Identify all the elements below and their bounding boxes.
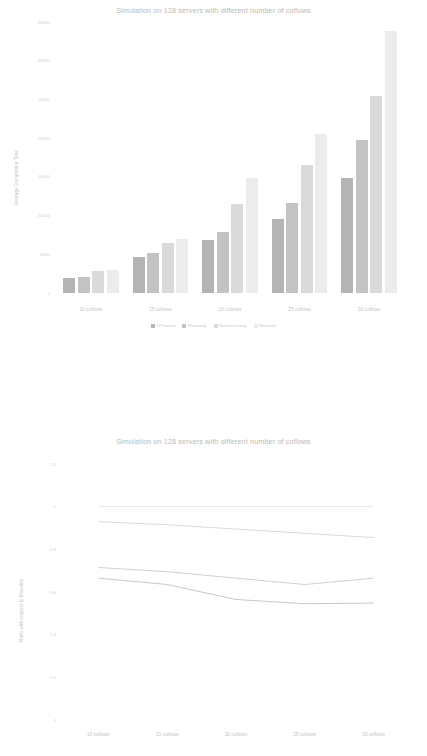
bar xyxy=(231,204,243,293)
bar-chart-y-tick: 10000 xyxy=(0,213,50,218)
bar xyxy=(78,277,90,293)
bar-chart-x-tick: 20 coflows xyxy=(195,307,265,312)
bar-group xyxy=(334,22,404,293)
bar-chart-legend: LP-basedFlow-onlySelection-onlyBaseline xyxy=(0,323,427,328)
bar xyxy=(176,239,188,293)
bar xyxy=(217,232,229,293)
bar-chart-x-tick: 25 coflows xyxy=(265,307,335,312)
line-chart-x-tick: 20 coflows xyxy=(202,732,271,737)
bar xyxy=(301,165,313,293)
bar-group xyxy=(56,22,126,293)
bar xyxy=(162,243,174,293)
bar xyxy=(133,257,145,293)
bar-group xyxy=(265,22,335,293)
bar xyxy=(315,134,327,294)
line-chart-figure: Simulation on 128 servers with different… xyxy=(0,420,427,756)
bar xyxy=(356,140,368,293)
bar xyxy=(63,278,75,293)
bar xyxy=(92,271,104,293)
legend-label: Flow-only xyxy=(188,323,207,328)
legend-item[interactable]: Baseline xyxy=(254,323,276,328)
legend-label: Selection-only xyxy=(219,323,247,328)
line-chart-y-tick: 0.4 xyxy=(0,632,56,637)
line-chart-svg xyxy=(64,464,408,720)
bar-chart-y-tick: 15000 xyxy=(0,174,50,179)
legend-item[interactable]: Flow-only xyxy=(182,323,206,328)
bar-chart-x-tick: 10 coflows xyxy=(56,307,126,312)
bar xyxy=(385,31,397,293)
bar-chart-y-tick: 30000 xyxy=(0,58,50,63)
legend-label: Baseline xyxy=(259,323,276,328)
line-chart-y-tick: 0.6 xyxy=(0,590,56,595)
bar-chart-y-tick: 0 xyxy=(0,291,50,296)
bar-chart-plot-area xyxy=(56,22,404,293)
bar xyxy=(341,178,353,293)
line-series xyxy=(98,522,373,538)
line-chart-y-tick: 1.2 xyxy=(0,462,56,467)
bar-chart-y-tick: 35000 xyxy=(0,20,50,25)
legend-item[interactable]: LP-based xyxy=(151,323,175,328)
bar xyxy=(147,253,159,293)
legend-swatch-icon xyxy=(182,324,186,328)
bar xyxy=(370,96,382,293)
bar-chart-y-tick: 25000 xyxy=(0,97,50,102)
legend-swatch-icon xyxy=(151,324,155,328)
legend-swatch-icon xyxy=(214,324,218,328)
bar xyxy=(202,240,214,293)
bar-chart-title: Simulation on 128 servers with different… xyxy=(0,6,427,15)
bar-chart-x-tick: 15 coflows xyxy=(126,307,196,312)
bar-chart-y-tick: 5000 xyxy=(0,252,50,257)
bar-chart-figure: Simulation on 128 servers with different… xyxy=(0,0,427,400)
line-chart-y-tick: 0.2 xyxy=(0,675,56,680)
legend-label: LP-based xyxy=(156,323,175,328)
bar xyxy=(246,178,258,293)
line-chart-y-tick: 0 xyxy=(0,718,56,723)
line-chart-x-tick: 25 coflows xyxy=(270,732,339,737)
line-chart-y-tick: 0.8 xyxy=(0,547,56,552)
legend-swatch-icon xyxy=(254,324,258,328)
line-chart-title: Simulation on 128 servers with different… xyxy=(0,437,427,446)
bar-chart-y-tick: 20000 xyxy=(0,136,50,141)
bar xyxy=(107,270,119,293)
line-chart-x-tick: 10 coflows xyxy=(64,732,133,737)
bar-chart-x-tick: 30 coflows xyxy=(334,307,404,312)
line-chart-y-tick: 1 xyxy=(0,504,56,509)
bar-group xyxy=(195,22,265,293)
bar xyxy=(286,203,298,293)
legend-item[interactable]: Selection-only xyxy=(214,323,247,328)
bar-group xyxy=(126,22,196,293)
line-chart-x-tick: 30 coflows xyxy=(339,732,408,737)
line-chart-x-tick: 15 coflows xyxy=(133,732,202,737)
bar xyxy=(272,219,284,293)
line-chart-plot-area xyxy=(64,464,408,720)
screenshot-root: Simulation on 128 servers with different… xyxy=(0,0,427,756)
